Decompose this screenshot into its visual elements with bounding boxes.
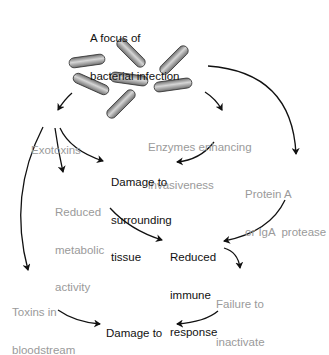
arrow-immune-to-failure [224, 248, 240, 268]
node-protein-a-line1: Protein A [245, 188, 326, 201]
node-protein-a: Protein A or IgA protease [245, 163, 326, 251]
node-reduced-immune-line2: immune [170, 289, 217, 302]
node-reduced-immune-line3: response [170, 326, 217, 339]
node-reduced-metabolic-line2: metabolic [55, 244, 104, 257]
node-exotoxins-line1: Exotoxins [31, 144, 81, 157]
node-reduced-immune: Reduced immune response [170, 226, 217, 351]
node-damage-tissue: Damage to surrounding tissue [111, 151, 172, 276]
node-damage-cells-line1: Damage to [106, 327, 171, 340]
node-damage-tissue-line3: tissue [111, 251, 172, 264]
node-toxins-blood-line2: bloodstream [12, 344, 75, 355]
node-focus-line2: bacterial infection [90, 70, 180, 83]
node-reduced-metabolic-line1: Reduced [55, 206, 104, 219]
node-reduced-immune-line1: Reduced [170, 251, 217, 264]
node-damage-cells: Damage to cells located elsewhere in the… [106, 302, 171, 355]
arrow-focus-to-enzymes [205, 92, 222, 110]
node-focus: A focus of bacterial infection [90, 7, 180, 95]
node-focus-line1: A focus of [90, 32, 180, 45]
node-failure: Failure to inactivate exotoxins [216, 273, 265, 355]
node-toxins-blood-line1: Toxins in [12, 306, 75, 319]
node-toxins-blood: Toxins in bloodstream [12, 281, 75, 355]
arrow-focus-to-exotoxins [58, 93, 72, 110]
node-failure-line2: inactivate [216, 336, 265, 349]
node-damage-tissue-line1: Damage to [111, 176, 172, 189]
node-failure-line1: Failure to [216, 298, 265, 311]
node-exotoxins: Exotoxins [31, 119, 81, 169]
node-protein-a-line2: or IgA protease [245, 226, 326, 239]
node-damage-tissue-line2: surrounding [111, 214, 172, 227]
